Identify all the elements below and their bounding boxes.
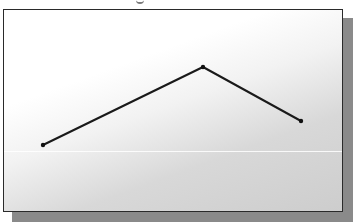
vertex-peak[interactable] — [201, 65, 205, 69]
polyline-graphic — [0, 0, 356, 223]
vertex-end[interactable] — [299, 119, 303, 123]
figure — [0, 0, 356, 223]
polyline[interactable] — [43, 67, 301, 145]
vertex-start[interactable] — [41, 143, 45, 147]
